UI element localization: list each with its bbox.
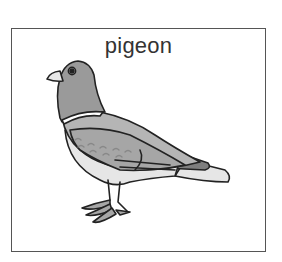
pigeon-illustration <box>0 0 282 262</box>
